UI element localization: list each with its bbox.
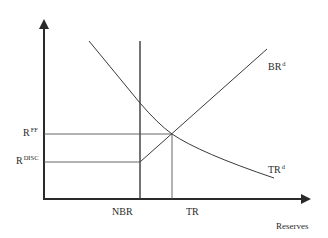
trd-label-sup: d [282,163,285,170]
brd-label-sup: d [282,60,285,67]
x-axis-arrow-icon [301,194,311,204]
trd-label: TRd [268,165,285,175]
rff-label: RFF [23,128,38,138]
rdisc-label: RDISC [16,156,38,166]
rff-label-base: R [23,127,30,138]
reserves-diagram [0,0,328,238]
tr-label: TR [186,207,199,217]
brd-curve [140,49,267,162]
rdisc-label-sup: DISC [24,154,39,161]
y-axis-arrow-icon [39,19,49,29]
rff-label-sup: FF [31,126,38,133]
nbr-label: NBR [112,207,133,217]
trd-label-base: TR [268,164,281,175]
trd-curve [89,41,274,178]
brd-label-base: BR [268,61,281,72]
x-axis-label: Reserves [276,222,309,231]
brd-label: BRd [268,62,286,72]
rdisc-label-base: R [16,155,23,166]
